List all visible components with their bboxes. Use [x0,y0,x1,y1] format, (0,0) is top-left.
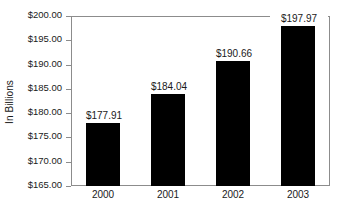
x-axis-tick-label: 2000 [75,189,131,200]
x-axis-tick-label: 2002 [205,189,261,200]
bar-value-label: $197.97 [270,13,328,24]
y-axis-tick-label: $200.00 [28,9,62,20]
bar [151,94,185,186]
bar [216,61,250,186]
bar-chart: In Billions $200.00$195.00$190.00$185.00… [0,0,347,204]
bar [86,123,120,186]
y-axis-tick-mark [66,186,71,187]
x-axis-tick-label: 2001 [140,189,196,200]
y-axis-tick-label: $175.00 [28,130,62,141]
y-axis-title: In Billions [0,0,18,204]
y-axis-tick-label: $180.00 [28,106,62,117]
bar-value-label: $184.04 [140,81,198,92]
bar-value-label: $190.66 [205,48,263,59]
y-axis-tick-label: $190.00 [28,58,62,69]
y-axis-tick-label: $185.00 [28,82,62,93]
bar-value-label: $177.91 [75,110,133,121]
bar [281,26,315,186]
y-axis-tick-label: $165.00 [28,179,62,190]
y-axis-tick-label: $195.00 [28,33,62,44]
x-axis-tick-label: 2003 [270,189,326,200]
y-axis-tick-label: $170.00 [28,155,62,166]
